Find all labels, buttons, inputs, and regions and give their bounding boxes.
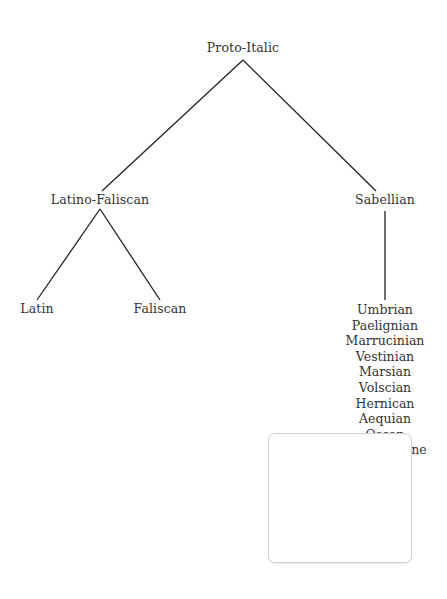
edge-latino-faliscan-faliscan xyxy=(100,209,160,300)
node-marrucinian: Marrucinian xyxy=(343,333,426,349)
edge-latino-faliscan-latin xyxy=(37,209,100,300)
node-volscian: Volscian xyxy=(343,380,426,396)
node-proto-italic: Proto-Italic xyxy=(207,40,279,56)
node-vestinian: Vestinian xyxy=(343,349,426,365)
node-faliscan: Faliscan xyxy=(134,301,187,317)
node-latin: Latin xyxy=(20,301,53,317)
node-marsian: Marsian xyxy=(343,364,426,380)
node-umbrian: Umbrian xyxy=(343,302,426,318)
node-latino-faliscan: Latino-Faliscan xyxy=(51,192,149,208)
edge-proto-italic-latino-faliscan xyxy=(102,60,243,191)
node-hernican: Hernican xyxy=(343,396,426,412)
edge-proto-italic-sabellian xyxy=(243,60,376,191)
node-sabellian: Sabellian xyxy=(355,192,415,208)
node-paelignian: Paelignian xyxy=(343,318,426,334)
node-aequian: Aequian xyxy=(343,411,426,427)
occluding-overlay-card xyxy=(268,433,412,563)
